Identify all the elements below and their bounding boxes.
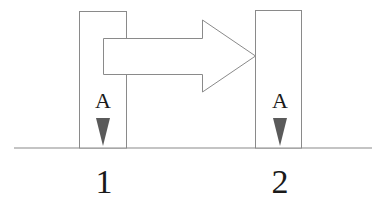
diagram-svg: A A 1 2 [0,0,383,204]
diagram-canvas: A A 1 2 [0,0,383,204]
position-label-1: 1 [96,163,113,200]
marker-label-2: A [272,88,288,113]
marker-label-1: A [95,88,111,113]
position-label-2: 2 [272,163,289,200]
